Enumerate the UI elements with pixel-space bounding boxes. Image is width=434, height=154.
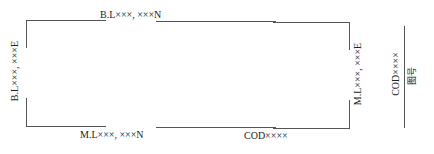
bottom-code-label: COD××××: [244, 131, 288, 141]
frame-bottom-right-line: [156, 127, 276, 128]
bottom-coordinate-label: M.L×××, ×××N: [80, 130, 144, 140]
frame-top-left-line: [26, 20, 106, 21]
title-block-code-label: COD××××: [391, 44, 401, 104]
top-coordinate-label: B.L×××, ×××N: [100, 10, 161, 20]
frame-bottom-left-line: [26, 126, 106, 127]
frame-left-bottom-line: [26, 98, 27, 126]
frame-bottom-right2-line: [273, 128, 350, 129]
frame-right-bottom-line: [349, 100, 350, 128]
title-block-divider-line: [404, 26, 405, 128]
frame-right-top-line: [349, 22, 350, 50]
figure-number-label: 图号: [408, 61, 417, 91]
left-coordinate-label: B.L×××, ×××E: [10, 36, 20, 106]
frame-top-right2-line: [273, 22, 350, 23]
frame-top-right-line: [156, 21, 276, 22]
right-coordinate-label: M.L×××, ×××E: [353, 38, 363, 110]
frame-left-top-line: [26, 20, 27, 48]
